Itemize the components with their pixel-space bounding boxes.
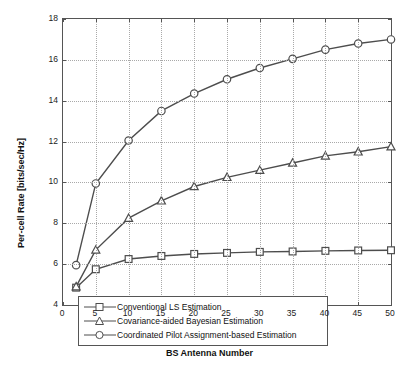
- x-axis-tick: [96, 18, 97, 22]
- x-axis-tick-label: 20: [188, 308, 197, 318]
- x-axis-tick: [358, 302, 359, 306]
- gridline-vertical: [325, 19, 326, 305]
- x-axis-tick: [129, 18, 130, 22]
- legend-label-conventional-ls: Conventional LS Estimation: [117, 301, 221, 313]
- legend-marker-triangle-icon: [83, 315, 117, 327]
- x-axis-tick: [227, 18, 228, 22]
- chart-legend: Conventional LS Estimation Covariance-ai…: [78, 296, 328, 346]
- y-axis-tick: [388, 264, 392, 265]
- x-axis-tick-label: 0: [60, 308, 65, 318]
- gridline-horizontal: [63, 264, 391, 265]
- x-axis-tick-label: 30: [254, 308, 263, 318]
- x-axis-tick-label: 10: [123, 308, 132, 318]
- y-axis-tick: [388, 60, 392, 61]
- x-axis-label: BS Antenna Number: [0, 348, 419, 358]
- gridline-horizontal: [63, 101, 391, 102]
- plot-area: [62, 18, 392, 306]
- x-axis-tick: [325, 18, 326, 22]
- y-axis-tick: [62, 19, 66, 20]
- y-axis-tick-label: 18: [38, 13, 58, 23]
- y-axis-tick-label: 12: [38, 136, 58, 146]
- y-axis-tick-label: 6: [38, 258, 58, 268]
- x-axis-tick-label: 40: [320, 308, 329, 318]
- y-axis-tick: [388, 223, 392, 224]
- x-axis-tick: [358, 18, 359, 22]
- y-axis-tick: [62, 305, 66, 306]
- y-axis-tick-label: 16: [38, 54, 58, 64]
- y-axis-tick-label: 14: [38, 95, 58, 105]
- data-point-circle: [387, 36, 394, 43]
- gridline-horizontal: [63, 223, 391, 224]
- x-axis-tick-label: 15: [156, 308, 165, 318]
- data-point-triangle: [387, 142, 395, 149]
- gridline-vertical: [129, 19, 130, 305]
- series-line: [76, 39, 391, 265]
- legend-marker-square-icon: [83, 301, 117, 313]
- gridline-vertical: [194, 19, 195, 305]
- x-axis-tick: [293, 18, 294, 22]
- y-axis-tick: [388, 19, 392, 20]
- gridline-vertical: [293, 19, 294, 305]
- x-axis-tick-label: 35: [287, 308, 296, 318]
- x-axis-tick-label: 45: [352, 308, 361, 318]
- x-axis-tick-label: 5: [92, 308, 97, 318]
- gridline-vertical: [358, 19, 359, 305]
- x-axis-tick-label: 50: [385, 308, 394, 318]
- gridline-vertical: [96, 19, 97, 305]
- data-point-square: [388, 247, 395, 254]
- legend-item-coordinated-pilot: Coordinated Pilot Assignment-based Estim…: [83, 328, 323, 342]
- gridline-horizontal: [63, 142, 391, 143]
- data-series: [73, 247, 395, 291]
- x-axis-tick: [194, 18, 195, 22]
- y-axis-tick: [62, 60, 66, 61]
- x-axis-tick: [260, 18, 261, 22]
- gridline-vertical: [260, 19, 261, 305]
- data-point-circle: [72, 261, 79, 268]
- y-axis-tick: [388, 305, 392, 306]
- gridline-horizontal: [63, 60, 391, 61]
- y-axis-tick: [388, 182, 392, 183]
- legend-label-coordinated-pilot: Coordinated Pilot Assignment-based Estim…: [117, 329, 297, 341]
- y-axis-label: Per-cell Rate [bits/sec/Hz]: [16, 138, 26, 248]
- legend-marker-circle-icon: [83, 329, 117, 341]
- gridline-horizontal: [63, 182, 391, 183]
- data-series: [72, 142, 395, 289]
- y-axis-tick: [62, 223, 66, 224]
- y-axis-tick-label: 8: [38, 217, 58, 227]
- series-line: [76, 147, 391, 287]
- x-axis-tick: [161, 18, 162, 22]
- y-axis-tick-label: 4: [38, 299, 58, 309]
- gridline-vertical: [227, 19, 228, 305]
- data-series: [72, 36, 394, 269]
- chart-container: BS Antenna Number Per-cell Rate [bits/se…: [0, 0, 419, 374]
- y-axis-tick-label: 10: [38, 176, 58, 186]
- x-axis-tick-label: 25: [221, 308, 230, 318]
- y-axis-tick: [388, 101, 392, 102]
- y-axis-tick: [62, 142, 66, 143]
- y-axis-tick: [62, 101, 66, 102]
- series-line: [76, 250, 391, 287]
- y-axis-tick: [62, 182, 66, 183]
- y-axis-tick: [62, 264, 66, 265]
- y-axis-tick: [388, 142, 392, 143]
- gridline-vertical: [161, 19, 162, 305]
